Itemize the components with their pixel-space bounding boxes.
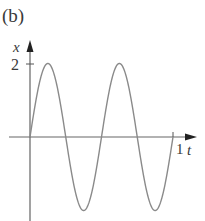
y-axis-arrow-icon <box>27 40 34 52</box>
x-tick-label-1: 1 <box>176 141 184 157</box>
y-axis-label: x <box>12 39 20 55</box>
chart-figure: (b) x 2 1 t <box>0 0 205 221</box>
x-axis-label: t <box>187 142 192 158</box>
panel-label: (b) <box>2 5 24 27</box>
x-axis-arrow-icon <box>185 134 197 141</box>
y-tick-label-2: 2 <box>11 56 19 73</box>
